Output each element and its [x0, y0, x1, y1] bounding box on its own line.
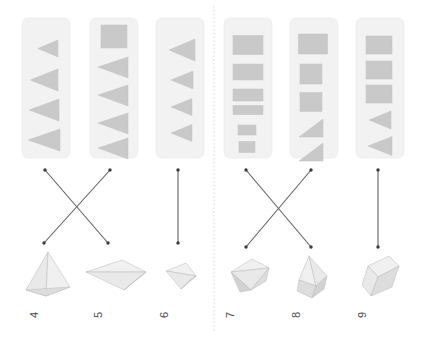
connector-endpoint-dot [244, 245, 247, 248]
panel-9-glyph-2-rect [366, 61, 392, 79]
solid-label-7: 7 [224, 312, 236, 318]
solid-5-flat-kite-bipyramid[interactable] [86, 260, 146, 290]
panel-9-glyph-1-rect [366, 36, 392, 54]
panel-8-glyph-2-rect [300, 64, 322, 84]
connector-endpoint-dot [42, 241, 45, 244]
panel-9-glyph-3-rect [366, 85, 392, 103]
solid-label-5: 5 [92, 312, 104, 318]
connector-endpoint-dot [376, 245, 379, 248]
panel-9[interactable] [356, 18, 404, 158]
figure-svg [0, 0, 425, 338]
connector-endpoint-dot [176, 241, 179, 244]
panel-6[interactable] [156, 18, 204, 158]
connector-endpoint-dot [309, 168, 312, 171]
solid-label-4: 4 [28, 312, 40, 318]
solid-label-9: 9 [356, 312, 368, 318]
panel-8[interactable] [290, 18, 338, 161]
solid-9-rectangular-prism-box[interactable] [362, 256, 399, 296]
figure-canvas: 4 5 6 7 8 9 [0, 0, 425, 338]
connector-endpoint-dot [376, 168, 379, 171]
solid-label-8: 8 [290, 312, 302, 318]
panel-6-card [156, 18, 204, 158]
connector-endpoint-dot [244, 168, 247, 171]
panel-4[interactable] [22, 18, 70, 158]
panel-7-glyph-2-rect [233, 64, 263, 80]
connector-endpoint-dot [108, 168, 111, 171]
connector-endpoint-dot [106, 241, 109, 244]
solid-8-house-pentahedron[interactable] [297, 256, 327, 298]
solid-label-6: 6 [158, 312, 170, 318]
panel-8-glyph-1-rect [299, 34, 328, 54]
solid-6-small-kite-tetrahedron[interactable] [166, 263, 196, 289]
connector-group-left [42, 168, 179, 244]
solid-5-face-front [86, 272, 146, 290]
panel-7[interactable] [224, 18, 272, 158]
connector-endpoint-dot [309, 245, 312, 248]
connector-endpoint-dot [176, 168, 179, 171]
panel-7-glyph-3-rect [233, 89, 263, 101]
panel-7-glyph-1-rect [233, 36, 263, 55]
connector-endpoint-dot [43, 168, 46, 171]
panel-5-glyph-1-square [101, 25, 127, 48]
solid-7-wedge-polyhedron[interactable] [231, 259, 269, 292]
panel-5[interactable] [90, 18, 138, 159]
connector-group-right [244, 168, 379, 248]
panel-8-glyph-3-rect [300, 93, 322, 112]
panel-7-glyph-5-rect [238, 125, 256, 135]
panel-7-glyph-4-rect [233, 106, 263, 115]
panel-7-glyph-6-rect [239, 142, 255, 153]
solid-4-tetrahedron-pyramid[interactable] [26, 252, 70, 296]
solid-5-face-top-left [86, 260, 146, 272]
